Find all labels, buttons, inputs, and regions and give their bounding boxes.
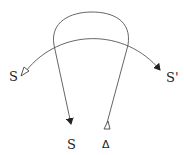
- label-s-left: S: [9, 69, 18, 84]
- loop-delta-to-s: [53, 12, 128, 124]
- arc-s-to-s-prime: [26, 39, 160, 71]
- diagram-canvas: S S' S Δ: [0, 0, 184, 155]
- open-triangle-tail-bottom-icon: [104, 121, 110, 129]
- label-s-prime: S': [166, 70, 178, 85]
- label-delta: Δ: [102, 138, 110, 151]
- label-s-bottom: S: [67, 137, 76, 152]
